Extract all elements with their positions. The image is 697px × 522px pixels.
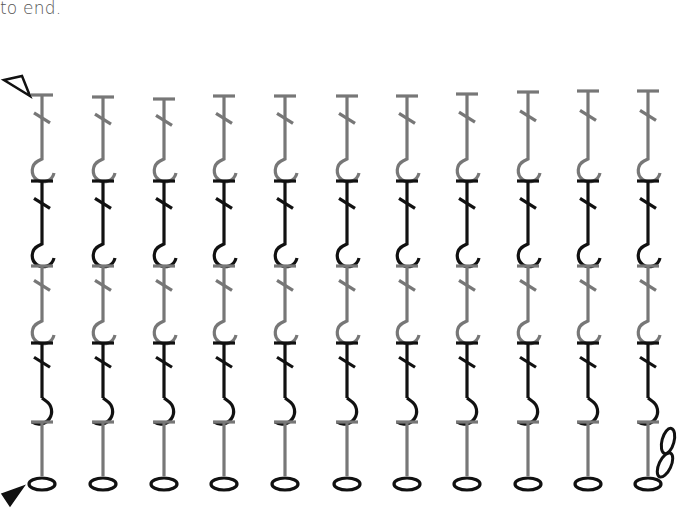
stitch-column	[151, 99, 177, 490]
end-row-marker-icon	[4, 76, 30, 96]
chain-stitch-icon	[575, 478, 601, 490]
start-row-marker-icon	[2, 486, 24, 506]
stitch-column	[90, 97, 116, 490]
stitch-column	[635, 91, 661, 490]
chain-stitch-icon	[635, 478, 661, 490]
stitch-column	[211, 96, 237, 490]
chain-stitch-icon	[515, 478, 541, 490]
crochet-chart	[0, 0, 697, 522]
chain-stitch-icon	[454, 478, 480, 490]
chain-stitch-icon	[211, 478, 237, 490]
stitch-column	[334, 96, 360, 490]
chain-stitch-icon	[29, 478, 55, 490]
chain-stitch-icon	[151, 478, 177, 490]
chain-stitch-icon	[90, 478, 116, 490]
chain-stitch-icon	[394, 478, 420, 490]
stitch-column	[29, 95, 55, 490]
stitch-column	[454, 94, 480, 490]
chain-stitch-icon	[654, 451, 676, 480]
stitch-column	[575, 91, 601, 490]
stitch-column	[515, 92, 541, 490]
stitch-column	[272, 96, 298, 490]
chain-stitch-icon	[272, 478, 298, 490]
chain-stitch-icon	[659, 427, 677, 455]
chain-stitch-icon	[334, 478, 360, 490]
stitch-column	[394, 96, 420, 490]
turning-chain	[654, 427, 677, 479]
